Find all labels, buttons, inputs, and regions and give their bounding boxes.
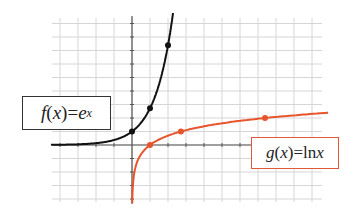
ln-function-label: g(x) = ln x — [251, 137, 339, 169]
func-name: g — [266, 143, 275, 163]
exp-function-label: f(x) = ex — [22, 96, 111, 130]
